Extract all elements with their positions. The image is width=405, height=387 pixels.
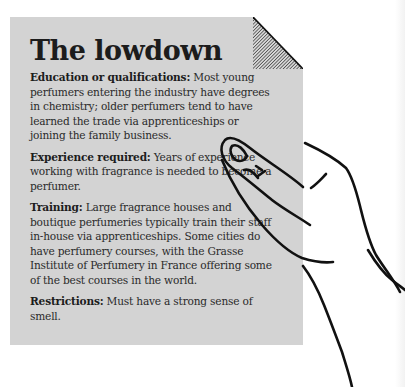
pointing-hand-icon — [0, 0, 405, 387]
